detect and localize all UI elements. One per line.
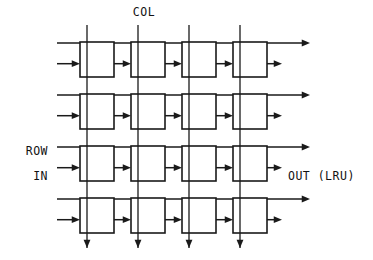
arrowhead-down [237, 240, 244, 248]
arrowhead-right [274, 216, 282, 223]
arrowhead-right [302, 40, 310, 47]
arrowhead-right [174, 216, 182, 223]
arrowhead-right [302, 144, 310, 151]
arrowhead-right [174, 60, 182, 67]
cell-r2c3[interactable] [233, 146, 267, 181]
cell-r3c0[interactable] [80, 198, 114, 233]
cell-r3c2[interactable] [182, 198, 216, 233]
cell-r0c0[interactable] [80, 42, 114, 77]
arrowhead-down [135, 240, 142, 248]
arrowhead-right [72, 216, 80, 223]
arrowhead-right [72, 60, 80, 67]
arrowhead-down [186, 240, 193, 248]
arrowhead-right [302, 92, 310, 99]
cell-r3c1[interactable] [131, 198, 165, 233]
cell-r0c3[interactable] [233, 42, 267, 77]
systolic-array-diagram: COL ROW IN OUT (LRU) [0, 0, 373, 260]
cell-r0c2[interactable] [182, 42, 216, 77]
cell-r2c2[interactable] [182, 146, 216, 181]
row-label: ROW [26, 144, 48, 158]
cell-r2c0[interactable] [80, 146, 114, 181]
arrowhead-right [225, 112, 233, 119]
arrowhead-right [72, 112, 80, 119]
arrowhead-right [225, 216, 233, 223]
arrowhead-right [123, 60, 131, 67]
arrowhead-right [302, 196, 310, 203]
cell-r1c3[interactable] [233, 94, 267, 129]
arrowhead-right [123, 112, 131, 119]
cell-r1c1[interactable] [131, 94, 165, 129]
col-label: COL [133, 5, 155, 19]
cell-r2c1[interactable] [131, 146, 165, 181]
arrowhead-right [225, 60, 233, 67]
arrowhead-right [225, 164, 233, 171]
arrowhead-right [72, 164, 80, 171]
arrowhead-right [174, 164, 182, 171]
arrowhead-right [274, 60, 282, 67]
arrowhead-right [274, 112, 282, 119]
out-label: OUT (LRU) [288, 169, 355, 183]
cell-r0c1[interactable] [131, 42, 165, 77]
cell-r1c0[interactable] [80, 94, 114, 129]
arrowhead-right [123, 164, 131, 171]
arrowhead-right [274, 164, 282, 171]
cell-r1c2[interactable] [182, 94, 216, 129]
array-canvas: COL ROW IN OUT (LRU) [0, 0, 373, 260]
arrowhead-right [123, 216, 131, 223]
arrowhead-down [84, 240, 91, 248]
cell-boxes-group [80, 42, 267, 233]
in-label: IN [33, 169, 48, 183]
cell-r3c3[interactable] [233, 198, 267, 233]
arrowhead-right [174, 112, 182, 119]
